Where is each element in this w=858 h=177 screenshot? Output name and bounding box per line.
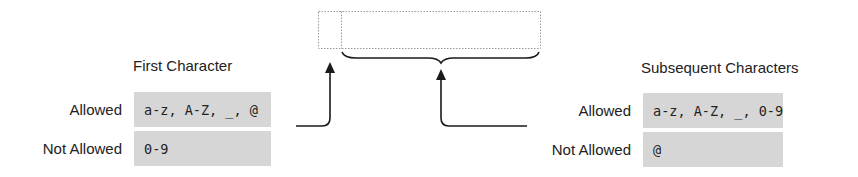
first-character-allowed-value: a-z, A-Z, _, @	[134, 92, 271, 127]
subsequent-characters-heading: Subsequent Characters	[641, 59, 799, 76]
first-character-not-allowed-label: Not Allowed	[10, 140, 122, 157]
first-character-allowed-label: Allowed	[20, 101, 122, 118]
first-character-heading: First Character	[133, 57, 232, 74]
subsequent-characters-allowed-value: a-z, A-Z, _, 0-9	[643, 93, 783, 128]
subsequent-characters-allowed-label: Allowed	[520, 102, 631, 119]
identifier-box	[319, 12, 541, 49]
subsequent-characters-not-allowed-value: @	[643, 132, 783, 167]
first-character-not-allowed-value: 0-9	[134, 131, 271, 166]
curly-brace	[342, 52, 539, 63]
arrow-first-character	[296, 62, 335, 126]
subsequent-characters-not-allowed-label: Not Allowed	[510, 141, 631, 158]
arrow-subsequent-characters	[436, 69, 527, 126]
